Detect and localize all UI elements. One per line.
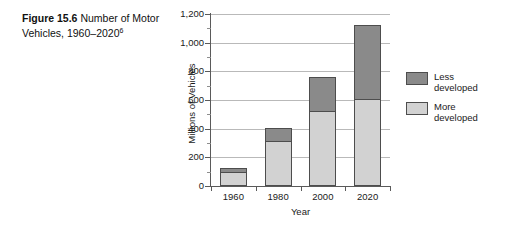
bar-2000[interactable] xyxy=(309,77,336,186)
legend-swatch-icon xyxy=(406,72,428,85)
bar-chart: Millions of Vehicles 02004006008001,0001… xyxy=(0,0,509,231)
legend-swatch-icon xyxy=(406,102,428,115)
legend-label-line1: More xyxy=(434,101,478,112)
legend-item-less-developed[interactable]: Lessdeveloped xyxy=(406,71,506,93)
y-axis-tick-label: 600 xyxy=(164,95,204,105)
bar-1960[interactable] xyxy=(220,168,247,186)
legend-label-line2: developed xyxy=(434,82,478,93)
bar-2020[interactable] xyxy=(354,25,381,186)
x-axis-tick xyxy=(301,186,302,191)
x-axis-tick-label-1980: 1980 xyxy=(256,191,300,202)
legend-label: Lessdeveloped xyxy=(434,71,478,93)
y-axis-tick-label: 200 xyxy=(164,152,204,162)
bar-segment-less-developed[interactable] xyxy=(265,128,292,141)
x-axis-label: Year xyxy=(211,206,390,217)
bar-segment-less-developed[interactable] xyxy=(354,25,381,99)
bar-segment-more-developed[interactable] xyxy=(354,99,381,186)
x-axis-tick xyxy=(390,186,391,191)
legend-item-more-developed[interactable]: Moredeveloped xyxy=(406,101,506,123)
y-axis-tick xyxy=(205,129,211,130)
y-axis-tick-label: 400 xyxy=(164,124,204,134)
y-axis-tick-label: 1,000 xyxy=(164,38,204,48)
x-axis-tick-label-2020: 2020 xyxy=(346,191,390,202)
gridline xyxy=(211,14,390,15)
legend-label-line1: Less xyxy=(434,71,478,82)
y-axis-minor-tick xyxy=(207,57,211,58)
bar-segment-less-developed[interactable] xyxy=(309,77,336,111)
y-axis-tick xyxy=(205,14,211,15)
bar-segment-more-developed[interactable] xyxy=(220,172,247,186)
y-axis-tick-label: 800 xyxy=(164,66,204,76)
y-axis-tick xyxy=(205,157,211,158)
y-axis-tick xyxy=(205,71,211,72)
x-axis-tick-label-1960: 1960 xyxy=(211,191,255,202)
y-axis-minor-tick xyxy=(207,172,211,173)
plot-area xyxy=(211,14,390,186)
bar-1980[interactable] xyxy=(265,128,292,186)
bar-segment-more-developed[interactable] xyxy=(265,141,292,186)
x-axis-tick xyxy=(211,186,212,191)
y-axis-minor-tick xyxy=(207,28,211,29)
y-axis-tick-label: 1,200 xyxy=(164,9,204,19)
y-axis-tick xyxy=(205,43,211,44)
legend-label-line2: developed xyxy=(434,112,478,123)
bar-segment-more-developed[interactable] xyxy=(309,111,336,186)
legend-label: Moredeveloped xyxy=(434,101,478,123)
x-axis-tick xyxy=(345,186,346,191)
y-axis-minor-tick xyxy=(207,86,211,87)
y-axis-tick xyxy=(205,100,211,101)
y-axis-tick-label: 0 xyxy=(164,181,204,191)
x-axis-tick-label-2000: 2000 xyxy=(301,191,345,202)
x-axis-tick xyxy=(256,186,257,191)
y-axis-tick-labels: 02004006008001,0001,200 xyxy=(158,0,204,231)
y-axis-minor-tick xyxy=(207,143,211,144)
chart-legend: LessdevelopedMoredeveloped xyxy=(406,71,506,131)
y-axis-minor-tick xyxy=(207,114,211,115)
